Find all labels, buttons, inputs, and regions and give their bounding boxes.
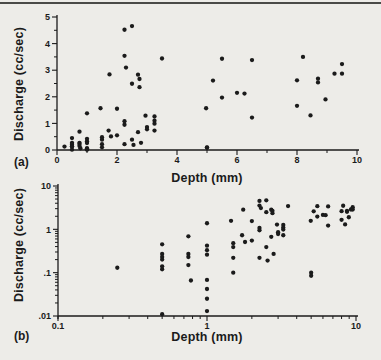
- data-point: [98, 106, 102, 110]
- data-point: [205, 287, 209, 291]
- data-point: [269, 235, 273, 239]
- data-point: [259, 206, 263, 210]
- data-point: [152, 128, 156, 132]
- y-tick-label: .01: [38, 311, 51, 321]
- data-point: [241, 208, 245, 212]
- panel-b-letter: (b): [14, 329, 29, 343]
- data-point: [265, 258, 269, 262]
- data-point: [85, 111, 89, 115]
- data-point: [205, 278, 209, 282]
- data-point: [160, 242, 164, 246]
- data-point: [243, 240, 247, 244]
- data-point: [100, 137, 104, 141]
- data-point: [345, 210, 349, 214]
- data-point: [205, 248, 209, 252]
- data-point: [122, 123, 126, 127]
- data-point: [264, 198, 268, 202]
- data-point: [205, 297, 209, 301]
- panel-b-x-axis-label: Depth (mm): [107, 330, 307, 344]
- data-point: [271, 252, 275, 256]
- y-tick-label: 3: [45, 65, 50, 75]
- data-point: [85, 141, 89, 145]
- data-point: [85, 148, 89, 152]
- data-point: [351, 207, 355, 211]
- data-point: [143, 114, 147, 118]
- data-point: [152, 114, 156, 118]
- data-point: [343, 222, 347, 226]
- data-point: [70, 148, 74, 152]
- data-point: [281, 233, 285, 237]
- x-tick-label: 6: [234, 155, 239, 165]
- data-point: [137, 85, 141, 89]
- data-point: [235, 91, 239, 95]
- data-point: [160, 312, 164, 316]
- y-tick-label: .1: [43, 268, 51, 278]
- data-point: [270, 211, 274, 215]
- data-point: [295, 104, 299, 108]
- data-point: [106, 128, 110, 132]
- scatter-panel-a: 0246810012345: [45, 12, 362, 164]
- data-point: [264, 245, 268, 249]
- data-point: [78, 146, 82, 150]
- data-point: [186, 255, 190, 259]
- data-point: [122, 54, 126, 58]
- panel-a-x-axis-label: Depth (mm): [107, 171, 307, 185]
- data-point: [109, 134, 113, 138]
- data-point: [145, 127, 149, 131]
- data-point: [136, 130, 140, 134]
- data-point: [250, 238, 254, 242]
- data-point: [115, 133, 119, 137]
- y-tick-label: 2: [45, 92, 50, 102]
- data-point: [286, 204, 290, 208]
- x-tick-label: 8: [294, 155, 299, 165]
- data-point: [205, 244, 209, 248]
- data-point: [340, 62, 344, 66]
- data-point: [312, 209, 316, 213]
- data-point: [205, 309, 209, 313]
- data-point: [323, 213, 327, 217]
- data-point: [341, 204, 345, 208]
- data-point: [115, 266, 119, 270]
- x-tick-label: 2: [114, 155, 119, 165]
- data-point: [326, 204, 330, 208]
- data-point: [122, 142, 126, 146]
- scatter-panel-b: 0.1110101.1.01: [38, 181, 361, 330]
- y-tick-label: 1: [46, 225, 51, 235]
- data-point: [130, 137, 134, 141]
- data-point: [276, 232, 280, 236]
- data-point: [220, 95, 224, 99]
- data-point: [220, 57, 224, 61]
- data-point: [315, 214, 319, 218]
- data-point: [160, 56, 164, 60]
- data-point: [152, 122, 156, 126]
- data-point: [186, 234, 190, 238]
- data-point: [275, 222, 279, 226]
- data-point: [122, 28, 126, 32]
- data-point: [107, 72, 111, 76]
- data-point: [130, 82, 134, 86]
- data-point: [229, 219, 233, 223]
- data-point: [315, 204, 319, 208]
- data-point: [204, 106, 208, 110]
- data-point: [301, 55, 305, 59]
- data-point: [205, 221, 209, 225]
- data-point: [139, 141, 143, 145]
- data-point: [257, 256, 261, 260]
- data-point: [316, 77, 320, 81]
- x-tick-label: 10: [352, 155, 362, 165]
- data-point: [308, 113, 312, 117]
- panel-b-y-axis-label: Discharge (cc/sec): [12, 165, 28, 325]
- data-point: [347, 215, 351, 219]
- data-point: [231, 241, 235, 245]
- data-point: [309, 274, 313, 278]
- data-point: [160, 257, 164, 261]
- data-point: [323, 97, 327, 101]
- data-point: [115, 107, 119, 111]
- data-point: [281, 227, 285, 231]
- data-point: [100, 145, 104, 149]
- data-point: [257, 228, 261, 232]
- data-point: [131, 143, 135, 147]
- data-point: [136, 73, 140, 77]
- data-point: [70, 136, 74, 140]
- data-point: [231, 271, 235, 275]
